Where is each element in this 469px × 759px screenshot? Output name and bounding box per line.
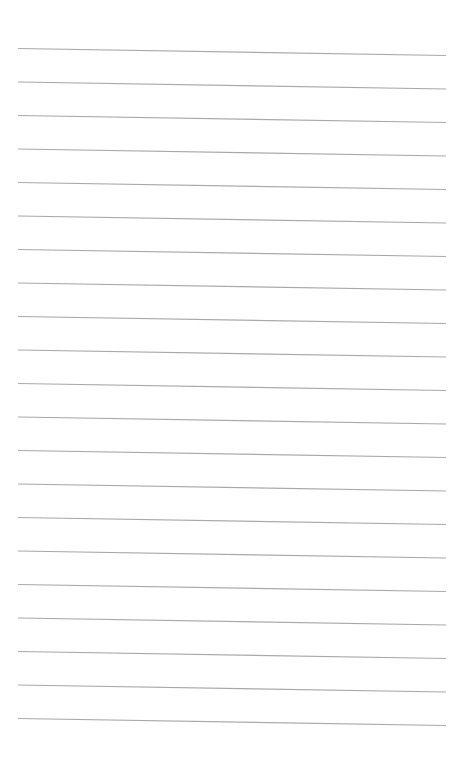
- ruled-line: [18, 384, 446, 391]
- lined-paper-page: [0, 0, 469, 759]
- ruled-line: [18, 719, 446, 726]
- ruled-line: [18, 82, 446, 89]
- ruled-line: [18, 551, 446, 558]
- ruled-line: [18, 283, 446, 290]
- ruled-line: [18, 618, 446, 625]
- ruled-line: [18, 317, 446, 324]
- ruled-line: [18, 585, 446, 592]
- ruled-line: [18, 417, 446, 424]
- ruled-line: [18, 250, 446, 257]
- ruled-line: [18, 149, 446, 156]
- ruled-line: [18, 183, 446, 190]
- ruled-line: [18, 350, 446, 357]
- ruled-line: [18, 685, 446, 692]
- ruled-line: [18, 652, 446, 659]
- ruled-line: [18, 216, 446, 223]
- ruled-lines: [0, 0, 469, 759]
- ruled-line: [18, 518, 446, 525]
- ruled-line: [18, 116, 446, 123]
- ruled-line: [18, 451, 446, 458]
- ruled-line: [18, 484, 446, 491]
- ruled-line: [18, 49, 446, 56]
